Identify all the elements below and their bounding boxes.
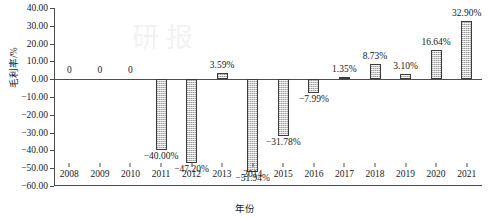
y-tick-mark (50, 61, 54, 62)
bar-value-label: 8.73% (363, 51, 388, 61)
y-tick-label: 20.00 (27, 39, 48, 49)
y-tick-mark (50, 8, 54, 9)
y-tick-mark (50, 150, 54, 151)
x-axis-ticks: 2008200920102011201220132014201520162017… (54, 163, 482, 187)
x-tick-mark (313, 163, 314, 167)
bar-value-label: −31.78% (266, 137, 301, 147)
x-tick-mark (375, 163, 376, 167)
x-tick-mark (466, 163, 467, 167)
bar (370, 64, 381, 80)
x-tick-label: 2012 (182, 169, 201, 179)
y-axis-spine (54, 8, 55, 186)
bar-chart: 研报 毛利率/% 年份 40.0030.0020.0010.000.00−10.… (0, 0, 489, 219)
x-tick-label: 2016 (304, 169, 323, 179)
y-tick-label: 40.00 (27, 3, 48, 13)
x-tick-label: 2008 (60, 169, 79, 179)
x-tick-label: 2020 (427, 169, 446, 179)
y-tick-label: −40.00 (21, 145, 48, 155)
y-tick-mark (50, 79, 54, 80)
x-tick-label: 2013 (213, 169, 232, 179)
y-tick-mark (50, 97, 54, 98)
bar-value-label: 0 (128, 65, 133, 75)
bar (156, 79, 167, 150)
bar (186, 79, 197, 163)
x-tick-mark (436, 163, 437, 167)
x-tick-label: 2014 (243, 169, 262, 179)
x-tick-mark (283, 163, 284, 167)
bar (308, 79, 319, 93)
bar (247, 79, 258, 172)
bar-value-label: 32.90% (452, 8, 481, 18)
x-tick-label: 2017 (335, 169, 354, 179)
y-tick-mark (50, 26, 54, 27)
bar (461, 21, 472, 80)
y-tick-mark (50, 115, 54, 116)
x-tick-label: 2018 (366, 169, 385, 179)
bar (278, 79, 289, 136)
x-tick-label: 2009 (90, 169, 109, 179)
x-tick-mark (405, 163, 406, 167)
bar (339, 77, 350, 79)
x-tick-mark (130, 163, 131, 167)
y-tick-label: −10.00 (21, 92, 48, 102)
x-tick-mark (161, 163, 162, 167)
x-tick-mark (69, 163, 70, 167)
bar-value-label: 16.64% (421, 37, 450, 47)
bar-value-label: 0 (67, 65, 72, 75)
y-tick-label: −30.00 (21, 128, 48, 138)
y-tick-label: 0.00 (31, 74, 48, 84)
y-tick-label: 30.00 (27, 21, 48, 31)
x-tick-label: 2011 (152, 169, 171, 179)
y-tick-mark (50, 44, 54, 45)
x-tick-mark (252, 163, 253, 167)
x-axis-title: 年份 (0, 201, 489, 215)
bar-value-label: 3.59% (210, 60, 235, 70)
bar (217, 73, 228, 79)
bar (431, 50, 442, 80)
bar-value-label: −40.00% (144, 151, 179, 161)
bar-value-label: −7.99% (299, 94, 329, 104)
bar-value-label: 1.35% (332, 64, 357, 74)
x-tick-mark (344, 163, 345, 167)
y-axis-title: 毛利率/% (9, 28, 20, 108)
plot-area: 40.0030.0020.0010.000.00−10.00−20.00−30.… (54, 8, 482, 186)
bar-value-label: 3.10% (393, 61, 418, 71)
y-tick-label: 10.00 (27, 56, 48, 66)
x-tick-label: 2010 (121, 169, 140, 179)
x-tick-label: 2015 (274, 169, 293, 179)
y-tick-label: −50.00 (21, 163, 48, 173)
x-tick-mark (191, 163, 192, 167)
y-tick-label: −20.00 (21, 110, 48, 120)
y-tick-label: −60.00 (21, 181, 48, 191)
x-tick-mark (99, 163, 100, 167)
y-tick-mark (50, 133, 54, 134)
bar (400, 74, 411, 80)
bar-value-label: 0 (98, 65, 103, 75)
zero-baseline (54, 79, 482, 80)
x-tick-label: 2021 (457, 169, 476, 179)
x-tick-mark (222, 163, 223, 167)
x-tick-label: 2019 (396, 169, 415, 179)
